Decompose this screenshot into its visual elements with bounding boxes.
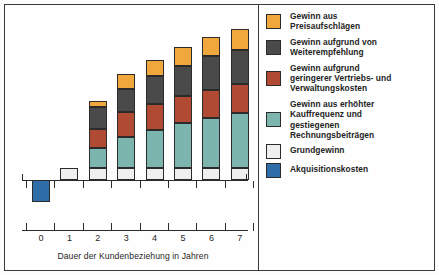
bar-year-3 xyxy=(117,8,135,266)
value-axis-baseline xyxy=(22,180,248,181)
bar-year-1 xyxy=(60,8,78,266)
bar-year-4 xyxy=(146,8,164,266)
segment-grundgewinn xyxy=(60,168,78,180)
legend-swatch-icon xyxy=(266,163,281,178)
bar-year-6 xyxy=(202,8,220,266)
x-axis-title: Dauer der Kundenbeziehung in Jahren xyxy=(10,251,256,261)
legend-item-label: Akquisitionskosten xyxy=(290,163,368,174)
segment-kauffrequenz xyxy=(146,130,164,167)
segment-preisaufschlaege xyxy=(174,47,192,66)
segment-weiterempfehlung xyxy=(146,76,164,103)
legend-item-label: Gewinn ausPreisaufschlägen xyxy=(290,10,360,32)
chart-legend: Gewinn ausPreisaufschlägenGewinn aufgrun… xyxy=(266,10,434,182)
category-axis-tick xyxy=(225,223,226,231)
segment-grundgewinn xyxy=(89,168,107,180)
legend-item-kauffrequenz[interactable]: Gewinn aus erhöhterKauffrequenz undgesti… xyxy=(266,98,434,141)
category-axis-tick xyxy=(26,223,27,231)
category-axis xyxy=(22,230,248,231)
category-axis-tick xyxy=(111,223,112,231)
segment-weiterempfehlung xyxy=(231,50,249,84)
segment-preisaufschlaege xyxy=(89,101,107,107)
bar-year-7 xyxy=(231,8,249,266)
segment-vertriebskosten xyxy=(117,112,135,137)
tick-label-1: 1 xyxy=(60,233,78,243)
segment-preisaufschlaege xyxy=(146,60,164,77)
segment-akquisitionskosten xyxy=(32,180,50,202)
axis-tick xyxy=(54,181,55,188)
bar-year-0 xyxy=(32,8,50,266)
axis-tick xyxy=(196,181,197,188)
axis-tick xyxy=(140,181,141,188)
segment-vertriebskosten xyxy=(146,104,164,131)
legend-item-label: Gewinn aufgrundgeringerer Vertriebs- und… xyxy=(290,62,391,94)
segment-kauffrequenz xyxy=(231,113,249,168)
legend-item-preisaufschlaege[interactable]: Gewinn ausPreisaufschlägen xyxy=(266,10,434,32)
legend-item-label: Gewinn aus erhöhterKauffrequenz undgesti… xyxy=(290,98,374,141)
category-axis-tick xyxy=(168,223,169,231)
segment-weiterempfehlung xyxy=(174,66,192,96)
plot-area: 01234567 Dauer der Kundenbeziehung in Ja… xyxy=(10,8,256,266)
bar-year-5 xyxy=(174,8,192,266)
category-axis-tick xyxy=(83,223,84,231)
axis-tick xyxy=(26,181,27,188)
axis-tick xyxy=(83,181,84,188)
segment-weiterempfehlung xyxy=(202,56,220,90)
segment-kauffrequenz xyxy=(117,137,135,168)
axis-tick xyxy=(225,181,226,188)
legend-item-label: Gewinn aufgrund vonWeiterempfehlung xyxy=(290,36,377,58)
legend-swatch-icon xyxy=(266,71,281,86)
segment-preisaufschlaege xyxy=(231,29,249,50)
segment-vertriebskosten xyxy=(202,90,220,118)
tick-label-7: 7 xyxy=(231,233,249,243)
tick-label-4: 4 xyxy=(146,233,164,243)
segment-kauffrequenz xyxy=(174,123,192,167)
category-axis-tick xyxy=(196,223,197,231)
segment-vertriebskosten xyxy=(174,96,192,123)
tick-label-6: 6 xyxy=(202,233,220,243)
segment-kauffrequenz xyxy=(202,118,220,168)
segment-grundgewinn xyxy=(117,168,135,180)
segment-vertriebskosten xyxy=(231,84,249,113)
category-axis-tick xyxy=(54,223,55,231)
segment-grundgewinn xyxy=(202,168,220,180)
legend-divider xyxy=(258,5,259,270)
legend-item-akquisitionskosten[interactable]: Akquisitionskosten xyxy=(266,163,434,178)
segment-vertriebskosten xyxy=(89,129,107,148)
segment-grundgewinn xyxy=(174,168,192,180)
bar-group xyxy=(10,8,256,266)
tick-label-0: 0 xyxy=(32,233,50,243)
legend-swatch-icon xyxy=(266,14,281,29)
axis-tick xyxy=(111,181,112,188)
legend-swatch-icon xyxy=(266,112,281,127)
tick-label-5: 5 xyxy=(174,233,192,243)
legend-swatch-icon xyxy=(266,40,281,55)
segment-preisaufschlaege xyxy=(202,37,220,56)
segment-weiterempfehlung xyxy=(89,107,107,128)
segment-preisaufschlaege xyxy=(117,74,135,89)
legend-item-weiterempfehlung[interactable]: Gewinn aufgrund vonWeiterempfehlung xyxy=(266,36,434,58)
tick-label-3: 3 xyxy=(117,233,135,243)
segment-kauffrequenz xyxy=(89,148,107,167)
legend-item-vertriebskosten[interactable]: Gewinn aufgrundgeringerer Vertriebs- und… xyxy=(266,62,434,94)
legend-item-grundgewinn[interactable]: Grundgewinn xyxy=(266,144,434,159)
axis-tick xyxy=(168,181,169,188)
segment-grundgewinn xyxy=(146,168,164,180)
legend-swatch-icon xyxy=(266,144,281,159)
axis-tick xyxy=(253,181,254,188)
segment-weiterempfehlung xyxy=(117,89,135,112)
category-axis-tick xyxy=(140,223,141,231)
legend-item-label: Grundgewinn xyxy=(290,144,345,155)
tick-label-2: 2 xyxy=(89,233,107,243)
chart-figure: 01234567 Dauer der Kundenbeziehung in Ja… xyxy=(0,0,439,275)
bar-year-2 xyxy=(89,8,107,266)
category-axis-tick xyxy=(253,223,254,231)
